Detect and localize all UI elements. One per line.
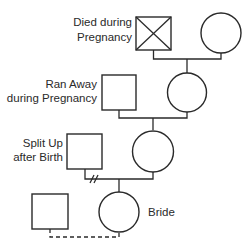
generation-4: Bride xyxy=(32,192,175,237)
engagement-line xyxy=(50,229,119,237)
label-ran-line2: during Pregnancy xyxy=(7,92,97,104)
label-ran-line1: Ran Away xyxy=(45,78,97,90)
male-square-gen3 xyxy=(67,134,102,169)
male-square-gen2 xyxy=(102,75,136,110)
male-square-gen4 xyxy=(32,194,68,229)
female-circle-gen2 xyxy=(168,73,207,112)
label-bride: Bride xyxy=(148,206,175,218)
marriage-line-gen3 xyxy=(85,169,153,179)
marriage-line-gen2 xyxy=(119,110,187,118)
label-split-line2: after Birth xyxy=(13,151,63,163)
female-circle-gen1 xyxy=(201,13,241,53)
generation-2: Ran Away during Pregnancy xyxy=(7,73,207,130)
label-died-line1: Died during xyxy=(73,16,132,28)
female-circle-gen3 xyxy=(133,131,174,172)
marriage-line-gen1 xyxy=(154,50,222,59)
label-died-line2: Pregnancy xyxy=(77,31,132,43)
bride-circle xyxy=(99,192,139,232)
generation-1: Died during Pregnancy xyxy=(73,13,241,73)
pedigree-diagram: Died during Pregnancy Ran Away during Pr… xyxy=(0,0,249,250)
label-split-line1: Split Up xyxy=(23,137,63,149)
generation-3: Split Up after Birth xyxy=(13,131,173,192)
